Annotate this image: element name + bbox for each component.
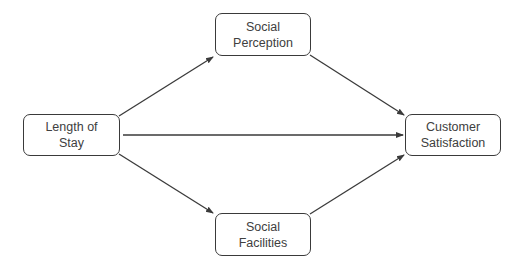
node-label-line: Social [239, 219, 288, 235]
node-length-of-stay: Length of Stay [23, 114, 120, 156]
edge-facilities-to-satisfaction [310, 155, 404, 214]
node-label-line: Perception [233, 35, 293, 51]
node-label-line: Facilities [239, 235, 288, 251]
node-label-line: Length of [45, 119, 97, 135]
edge-perception-to-satisfaction [310, 55, 404, 115]
path-diagram: Length of Stay Social Perception Custome… [0, 0, 519, 269]
node-label-line: Social [233, 19, 293, 35]
node-label-line: Stay [45, 135, 97, 151]
node-label-line: Satisfaction [421, 135, 486, 151]
node-social-perception: Social Perception [215, 13, 311, 56]
node-label-line: Customer [421, 119, 486, 135]
edge-los-to-perception [119, 57, 213, 116]
node-customer-satisfaction: Customer Satisfaction [405, 114, 501, 156]
node-social-facilities: Social Facilities [215, 213, 311, 256]
edge-los-to-facilities [119, 154, 213, 213]
